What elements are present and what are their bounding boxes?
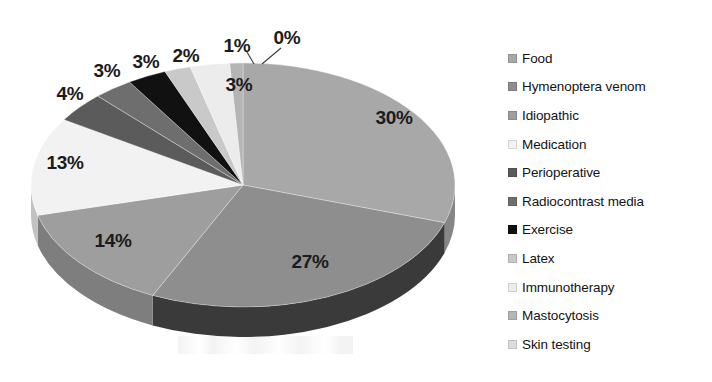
legend-item-skin-testing[interactable]: Skin testing [508, 330, 712, 359]
legend-item-exercise[interactable]: Exercise [508, 216, 712, 245]
mastocytosis-leader [247, 52, 254, 64]
legend-item-latex[interactable]: Latex [508, 244, 712, 273]
legend-item-label: Food [522, 51, 552, 66]
legend-item-label: Immunotherapy [522, 280, 615, 295]
legend-swatch-icon-latex [508, 254, 517, 263]
legend-item-medication[interactable]: Medication [508, 130, 712, 159]
legend-item-label: Radiocontrast media [522, 194, 644, 209]
pie-chart-plot-area: Food 30%Hymenoptera venom 27%Idiopathic … [0, 0, 492, 382]
skin-testing-leader [262, 48, 281, 64]
pie-leader-lines [247, 48, 281, 64]
legend-item-mastocytosis[interactable]: Mastocytosis [508, 301, 712, 330]
legend-swatch-icon-perioperative [508, 168, 517, 177]
legend-swatch-icon-skin-testing [508, 340, 517, 349]
legend-item-label: Hymenoptera venom [522, 79, 646, 94]
legend-item-label: Idiopathic [522, 108, 579, 123]
legend-item-label: Mastocytosis [522, 308, 599, 323]
legend-swatch-icon-medication [508, 140, 517, 149]
legend-item-hymenoptera-venom[interactable]: Hymenoptera venom [508, 73, 712, 102]
legend-item-label: Perioperative [522, 165, 600, 180]
legend-item-perioperative[interactable]: Perioperative [508, 158, 712, 187]
legend-swatch-icon-mastocytosis [508, 311, 517, 320]
legend-item-immunotherapy[interactable]: Immunotherapy [508, 273, 712, 302]
legend-item-radiocontrast-media[interactable]: Radiocontrast media [508, 187, 712, 216]
legend-swatch-icon-hymenoptera-venom [508, 82, 517, 91]
legend-item-food[interactable]: Food [508, 44, 712, 73]
legend-item-label: Latex [522, 251, 555, 266]
legend-swatch-icon-food [508, 54, 517, 63]
pie-chart-svg: Food 30%Hymenoptera venom 27%Idiopathic … [0, 0, 492, 382]
legend-swatch-icon-immunotherapy [508, 283, 517, 292]
legend-swatch-icon-idiopathic [508, 111, 517, 120]
pie-chart-figure: Food 30%Hymenoptera venom 27%Idiopathic … [0, 0, 712, 382]
legend-swatch-icon-exercise [508, 225, 517, 234]
legend-item-label: Medication [522, 137, 586, 152]
legend-item-label: Skin testing [522, 337, 591, 352]
legend-item-label: Exercise [522, 222, 573, 237]
pie-top-slices: Food 30%Hymenoptera venom 27%Idiopathic … [31, 63, 455, 307]
chart-legend: FoodHymenoptera venomIdiopathicMedicatio… [492, 0, 712, 382]
legend-item-idiopathic[interactable]: Idiopathic [508, 101, 712, 130]
legend-swatch-icon-radiocontrast-media [508, 197, 517, 206]
